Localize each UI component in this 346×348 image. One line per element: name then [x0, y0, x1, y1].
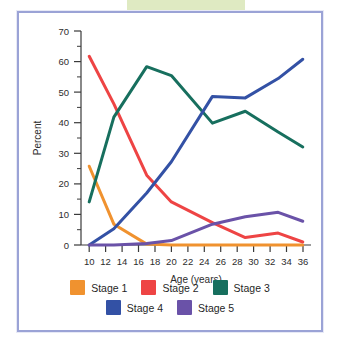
figure-frame: 70 60 50 40 30 20 10 0 Percent: [17, 11, 323, 332]
y-tick-label: 70: [58, 26, 69, 37]
y-tick-label: 40: [58, 117, 69, 128]
x-tick-label: 34: [281, 256, 292, 267]
x-tick-label: 24: [199, 256, 210, 267]
legend-swatch-stage-3: [213, 280, 228, 295]
series-line-stage-3[interactable]: [89, 67, 303, 202]
legend-label-stage-3: Stage 3: [234, 282, 270, 294]
x-tick-label: 16: [133, 256, 144, 267]
legend-item-stage-4[interactable]: Stage 4: [106, 300, 163, 315]
x-tick-label: 30: [248, 256, 259, 267]
legend-swatch-stage-5: [177, 300, 192, 315]
x-tick-label: 12: [100, 256, 111, 267]
y-tick-label: 0: [64, 240, 69, 251]
x-tick-label: 22: [183, 256, 194, 267]
x-axis-tick-labels: 10 12 14 16 18 20 22 24 26 28 30 32 34 3…: [84, 256, 308, 267]
y-tick-label: 60: [58, 56, 69, 67]
legend-item-stage-5[interactable]: Stage 5: [177, 300, 234, 315]
legend-item-stage-2[interactable]: Stage 2: [141, 280, 198, 295]
y-tick-label: 10: [58, 209, 69, 220]
y-axis-ticks: [74, 31, 81, 245]
legend-swatch-stage-2: [141, 280, 156, 295]
x-tick-label: 18: [150, 256, 161, 267]
x-tick-label: 26: [215, 256, 226, 267]
legend-swatch-stage-1: [70, 280, 85, 295]
legend-label-stage-1: Stage 1: [91, 282, 127, 294]
x-tick-label: 20: [166, 256, 177, 267]
legend-label-stage-5: Stage 5: [198, 302, 234, 314]
chart-legend: Stage 1 Stage 2 Stage 3 Stage 4 Stage 5: [19, 280, 321, 320]
data-series-group: [89, 56, 303, 245]
y-axis-title: Percent: [32, 121, 43, 156]
legend-item-stage-3[interactable]: Stage 3: [213, 280, 270, 295]
x-tick-label: 28: [232, 256, 243, 267]
y-tick-label: 50: [58, 87, 69, 98]
x-tick-label: 10: [84, 256, 95, 267]
legend-label-stage-4: Stage 4: [127, 302, 163, 314]
legend-row-top: Stage 1 Stage 2 Stage 3: [19, 280, 321, 295]
y-tick-label: 30: [58, 148, 69, 159]
y-axis-tick-labels: 70 60 50 40 30 20 10 0: [58, 26, 69, 251]
legend-item-stage-1[interactable]: Stage 1: [70, 280, 127, 295]
series-line-stage-4[interactable]: [89, 59, 303, 245]
legend-swatch-stage-4: [106, 300, 121, 315]
y-tick-label: 20: [58, 178, 69, 189]
x-tick-label: 14: [117, 256, 128, 267]
legend-row-bottom: Stage 4 Stage 5: [19, 300, 321, 315]
x-tick-label: 32: [265, 256, 276, 267]
legend-label-stage-2: Stage 2: [162, 282, 198, 294]
x-tick-label: 36: [298, 256, 309, 267]
